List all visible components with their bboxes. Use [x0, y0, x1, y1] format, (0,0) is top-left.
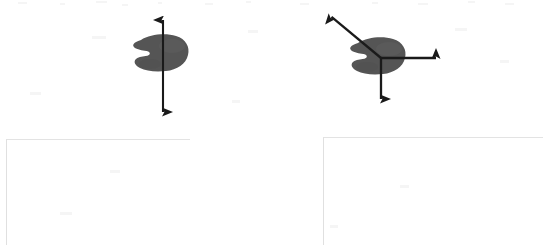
figure-panel-right	[282, 0, 543, 245]
blob-scan-tone	[356, 62, 378, 72]
figure-page	[0, 0, 543, 245]
blob-scan-tone	[139, 59, 161, 69]
caption-box-left	[6, 139, 190, 245]
lamina-blob-left	[133, 34, 188, 71]
blob-scan-tone	[376, 42, 402, 56]
caption-box-right	[323, 137, 543, 245]
figure-panel-left	[0, 0, 282, 245]
axis-triad-right	[332, 17, 437, 99]
